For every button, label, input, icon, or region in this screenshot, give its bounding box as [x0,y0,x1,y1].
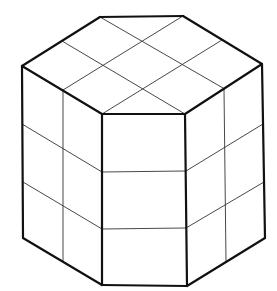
left-face-horizontal-divider [23,182,102,229]
grid-lines [22,16,264,262]
top-face-edge [185,64,262,114]
top-face-grid-line [62,41,185,114]
right-vertical-edge [262,64,265,238]
left-vertical-edge [22,66,23,238]
prism-outline [22,16,265,286]
front-face-horizontal-divider [102,228,186,229]
left-face-horizontal-divider [22,124,102,172]
bottom-front-edge [102,285,187,286]
bottom-left-edge [23,238,102,285]
right-face-vertical-divider [224,88,226,262]
top-face-grid-line [63,16,183,90]
front-right-vertical-edge [185,114,187,286]
hexagonal-prism-diagram [0,0,277,291]
top-face-edge [100,16,183,17]
diagram-canvas [0,0,277,291]
top-face-edge [22,17,100,66]
front-face-horizontal-divider [102,171,186,172]
